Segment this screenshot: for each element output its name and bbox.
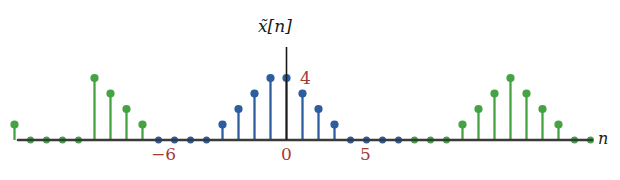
stem-marker [330, 120, 338, 128]
stem-series-left-period [10, 74, 146, 144]
stem-marker [10, 120, 18, 128]
stem-marker [554, 120, 562, 128]
stem-marker [298, 89, 306, 97]
tick-label-5: 5 [360, 146, 371, 163]
stem-marker [538, 105, 546, 113]
stem-marker [138, 120, 146, 128]
stem-marker [122, 105, 130, 113]
stem-marker [250, 89, 258, 97]
stem-marker [458, 120, 466, 128]
stem-marker [490, 89, 498, 97]
stem-marker [314, 105, 322, 113]
stem-plot-svg [0, 0, 620, 180]
peak-value-label: 4 [300, 70, 311, 87]
stem-series-center-period [155, 74, 402, 144]
stem-marker [106, 89, 114, 97]
tick-label-0: 0 [281, 146, 292, 163]
stem-marker [218, 120, 226, 128]
tick-label-minus-6: −6 [151, 146, 176, 163]
stem-marker [474, 105, 482, 113]
stem-series-right-period [411, 74, 594, 144]
stem-plot-figure: x̃[n] 4 −6 0 5 n [0, 0, 620, 180]
x-axis-label: n [598, 131, 608, 147]
plot-title: x̃[n] [258, 18, 292, 35]
stem-marker [522, 89, 530, 97]
stem-marker [90, 74, 98, 82]
stem-marker [234, 105, 242, 113]
stem-marker [506, 74, 514, 82]
stem-marker [266, 74, 274, 82]
